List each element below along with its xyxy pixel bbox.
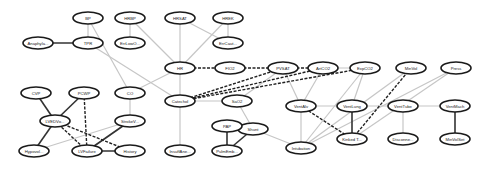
node-anaphylaxis[interactable]: Anaphyla...	[23, 37, 53, 49]
node-label: ErrLowO...	[120, 41, 140, 46]
node-hypovolemia[interactable]: Hypovol...	[19, 145, 49, 157]
node-ventmach[interactable]: VentMach	[440, 100, 470, 112]
node-pcwp[interactable]: PCWP	[69, 87, 99, 99]
node-press[interactable]: Press	[441, 62, 471, 74]
node-intubation[interactable]: Intubation	[286, 142, 316, 154]
node-pap[interactable]: PAP	[212, 120, 242, 132]
node-label: LVEDVo...	[45, 119, 64, 124]
node-label: PVSAT	[276, 66, 290, 71]
node-label: CO	[127, 91, 134, 96]
node-errlowoutput[interactable]: ErrLowO...	[115, 37, 145, 49]
node-label: VentLung	[343, 104, 361, 109]
node-fio2[interactable]: FIO2	[215, 62, 245, 74]
node-label: InsuffAne...	[169, 149, 190, 154]
node-label: VentMach	[446, 104, 465, 109]
node-label: FIO2	[225, 66, 235, 71]
node-disconnect[interactable]: Disconne...	[388, 133, 418, 145]
node-label: MinVolSet	[446, 137, 466, 142]
node-label: HRSAT	[173, 16, 187, 21]
network-diagram: BP HRBP HRSAT HREK Anaphyla... TPR ErrLo…	[0, 0, 493, 172]
node-pvsat[interactable]: PVSAT	[268, 62, 298, 74]
node-venttube[interactable]: VentTube	[388, 100, 418, 112]
node-label: Intubation	[292, 146, 311, 151]
node-label: PAP	[223, 124, 231, 129]
node-history[interactable]: History	[115, 145, 145, 157]
node-ventalv[interactable]: VentAlv	[286, 100, 316, 112]
node-label: VentAlv	[294, 104, 309, 109]
node-pulmembolus[interactable]: PulmEmb...	[212, 145, 242, 157]
node-label: Shunt	[248, 127, 260, 132]
node-hr[interactable]: HR	[165, 62, 195, 74]
node-catechol[interactable]: Catechol	[165, 95, 195, 107]
node-label: HRBP	[124, 16, 136, 21]
node-label: Catechol	[172, 99, 189, 104]
node-hrbp[interactable]: HRBP	[115, 12, 145, 24]
node-artco2[interactable]: ArtCO2	[308, 62, 338, 74]
node-errcauter[interactable]: ErrCaut...	[213, 37, 243, 49]
node-label: HR	[177, 66, 183, 71]
node-label: MinVol	[405, 66, 418, 71]
node-hrsat[interactable]: HRSAT	[165, 12, 195, 24]
node-bp[interactable]: BP	[73, 12, 103, 24]
node-lvfailure[interactable]: LVFailure	[72, 145, 102, 157]
node-label: PulmEmb...	[216, 149, 238, 154]
node-expco2[interactable]: ExpCO2	[350, 62, 380, 74]
node-lvedvolume[interactable]: LVEDVo...	[40, 115, 70, 127]
node-label: Disconne...	[393, 137, 414, 142]
node-kinkedtube[interactable]: Kinked T...	[337, 133, 367, 145]
node-minvol[interactable]: MinVol	[396, 62, 426, 74]
node-label: HREK	[222, 16, 234, 21]
node-label: Hypovol...	[25, 149, 44, 154]
node-label: History	[123, 149, 137, 154]
node-label: PCWP	[78, 91, 91, 96]
node-label: ErrCaut...	[219, 41, 237, 46]
node-sao2[interactable]: SaO2	[222, 95, 252, 107]
node-label: Kinked T...	[342, 137, 361, 142]
node-label: CVP	[32, 91, 41, 96]
node-cvp[interactable]: CVP	[21, 87, 51, 99]
node-label: BP	[85, 16, 91, 21]
node-label: TPR	[84, 41, 92, 46]
node-label: VentTube	[394, 104, 412, 109]
node-strokevolume[interactable]: StrokeV...	[115, 115, 145, 127]
node-insuffanesth[interactable]: InsuffAne...	[165, 145, 195, 157]
node-label: Press	[451, 66, 462, 71]
node-minvolset[interactable]: MinVolSet	[440, 133, 470, 145]
node-label: LVFailure	[78, 149, 96, 154]
node-ventlung[interactable]: VentLung	[337, 100, 367, 112]
node-label: ArtCO2	[316, 66, 331, 71]
node-tpr[interactable]: TPR	[73, 37, 103, 49]
node-label: StrokeV...	[121, 119, 139, 124]
node-label: SaO2	[232, 99, 243, 104]
node-hrek[interactable]: HREK	[213, 12, 243, 24]
node-label: ExpCO2	[357, 66, 373, 71]
node-label: Anaphyla...	[28, 41, 49, 46]
node-co[interactable]: CO	[115, 87, 145, 99]
